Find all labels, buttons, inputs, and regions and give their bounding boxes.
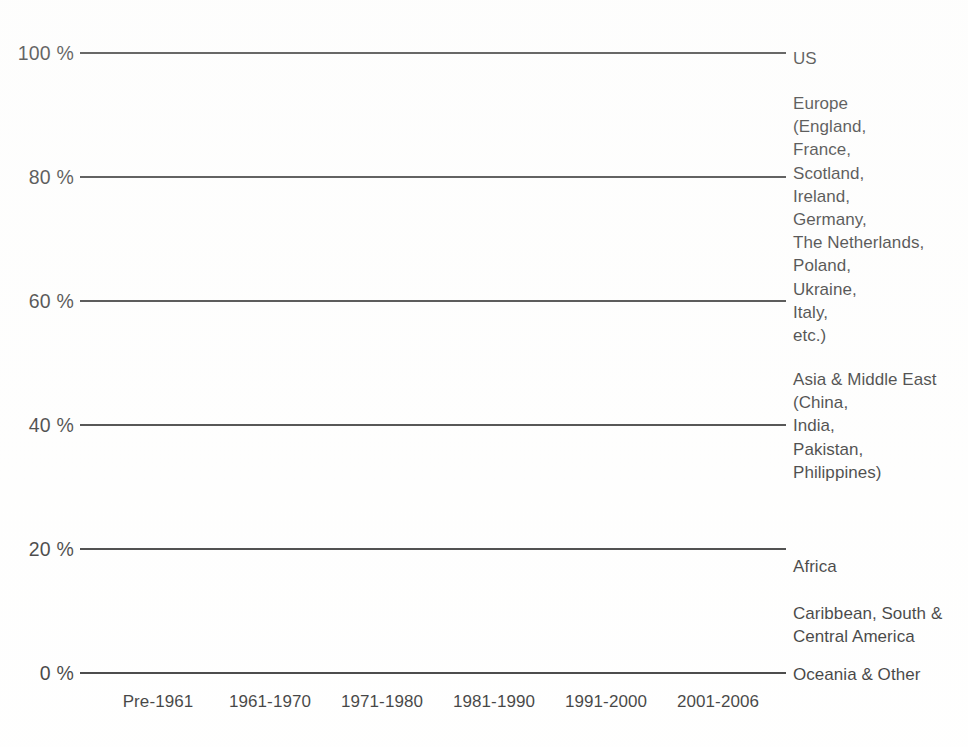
y-axis-tick-mark xyxy=(80,176,108,178)
x-axis-label-1961-1970: 1961-1970 xyxy=(229,692,311,712)
x-axis-label-pre-1961: Pre-1961 xyxy=(123,692,194,712)
y-axis-tick-label: 20 % xyxy=(29,538,74,561)
x-axis-label-1981-1990: 1981-1990 xyxy=(453,692,535,712)
x-axis-label-1991-2000: 1991-2000 xyxy=(565,692,647,712)
legend-item-us[interactable]: US xyxy=(793,47,817,70)
stacked-bar-chart: 100 % 80 % 60 % 40 % 20 % 0 % xyxy=(0,0,968,747)
legend-item-asia[interactable]: Asia & Middle East (China, India, Pakist… xyxy=(793,368,937,484)
y-axis-tick-label: 40 % xyxy=(29,414,74,437)
y-axis-tick-mark xyxy=(80,300,108,302)
y-axis-tick-mark xyxy=(80,52,108,54)
legend-item-africa[interactable]: Africa xyxy=(793,555,837,578)
legend-item-caribbean[interactable]: Caribbean, South & Central America xyxy=(793,602,942,648)
x-axis-label-1971-1980: 1971-1980 xyxy=(341,692,423,712)
y-axis-tick-mark xyxy=(80,672,108,674)
y-axis-tick-mark xyxy=(80,424,108,426)
x-axis-label-2001-2006: 2001-2006 xyxy=(677,692,759,712)
legend-item-europe[interactable]: Europe (England, France, Scotland, Irela… xyxy=(793,92,924,347)
y-axis-tick-label: 80 % xyxy=(29,166,74,189)
y-axis-tick-label: 0 % xyxy=(40,662,74,685)
plot-area xyxy=(108,53,780,673)
y-axis-tick-label: 100 % xyxy=(18,42,74,65)
y-axis-tick-mark xyxy=(80,548,108,550)
legend-item-oceania[interactable]: Oceania & Other xyxy=(793,663,920,686)
y-axis-tick-label: 60 % xyxy=(29,290,74,313)
